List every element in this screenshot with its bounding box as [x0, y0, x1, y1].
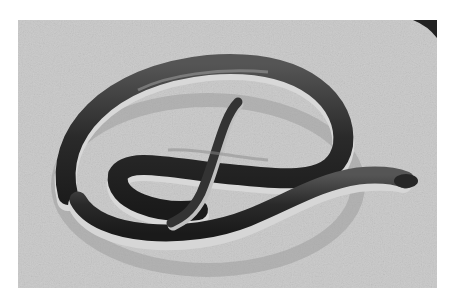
snake-head: [394, 174, 418, 188]
snake-photo: [18, 20, 437, 288]
snake-illustration: [18, 20, 437, 288]
